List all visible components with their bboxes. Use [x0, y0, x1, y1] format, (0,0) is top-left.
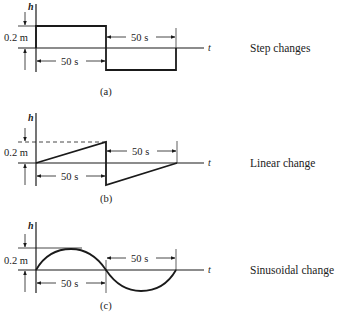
panel-caption: (a) [100, 86, 112, 98]
duration-label-1: 50 s [61, 56, 78, 67]
duration-label-2: 50 s [131, 32, 148, 43]
duration-label-2: 50 s [131, 253, 148, 264]
y-axis-label: h [28, 220, 34, 231]
panel-a-step: h t 0.2 m 50 s 50 s (a) [4, 1, 211, 98]
duration-label-2: 50 s [132, 146, 149, 157]
panel-caption: (b) [100, 193, 113, 205]
y-axis-label: h [28, 1, 34, 12]
amplitude-label: 0.2 m [4, 255, 28, 266]
panel-b-linear: h t 0.2 m 50 s 50 s (b) [4, 112, 211, 205]
x-axis-label: t [208, 42, 211, 53]
duration-label-1: 50 s [61, 278, 78, 289]
x-axis-label: t [208, 157, 211, 168]
description-step-changes: Step changes [250, 42, 310, 54]
x-axis-label: t [208, 264, 211, 275]
panel-c-sinusoidal: h t 0.2 m 50 s 50 s (c) [4, 220, 211, 312]
description-sinusoidal-change: Sinusoidal change [250, 264, 334, 276]
duration-label-1: 50 s [61, 171, 78, 182]
description-linear-change: Linear change [250, 157, 315, 169]
panel-caption: (c) [100, 300, 112, 312]
amplitude-label: 0.2 m [4, 147, 28, 158]
y-axis-label: h [28, 112, 34, 123]
amplitude-label: 0.2 m [4, 32, 28, 43]
